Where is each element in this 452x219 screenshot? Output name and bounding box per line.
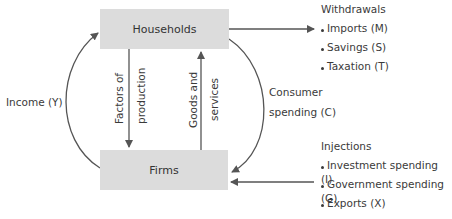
factors-label-line2: production [135,68,147,124]
bullet-icon [321,29,324,32]
injection-item: Exports (X) [321,196,452,215]
bullet-icon [321,166,324,169]
injections-list: Injections Investment spending (I) Gover… [321,139,452,215]
withdrawals-list: Withdrawals Imports (M) Savings (S) Taxa… [321,2,389,78]
goods-label-line1: Goods and [187,72,199,128]
withdrawal-item: Imports (M) [321,21,389,40]
consumer-label-line2: spending (C) [269,106,336,118]
income-label: Income (Y) [6,96,63,108]
injections-title: Injections [321,139,452,158]
bullet-icon [321,48,324,51]
households-label: Households [133,23,197,36]
firms-node: Firms [100,150,228,190]
withdrawal-item: Savings (S) [321,40,389,59]
households-node: Households [100,9,229,49]
injection-item: Investment spending (I) [321,158,452,177]
consumer-spending-arrow [229,39,264,172]
withdrawals-title: Withdrawals [321,2,389,21]
consumer-label-line1: Consumer [269,86,323,98]
firms-label: Firms [149,164,178,177]
bullet-icon [321,185,324,188]
factors-label-line1: Factors of [113,73,125,124]
injection-item: Government spending (G) [321,177,452,196]
income-arrow [66,33,100,168]
goods-label-line2: services [208,78,220,121]
bullet-icon [321,204,324,207]
bullet-icon [321,67,324,70]
withdrawal-item: Taxation (T) [321,59,389,78]
